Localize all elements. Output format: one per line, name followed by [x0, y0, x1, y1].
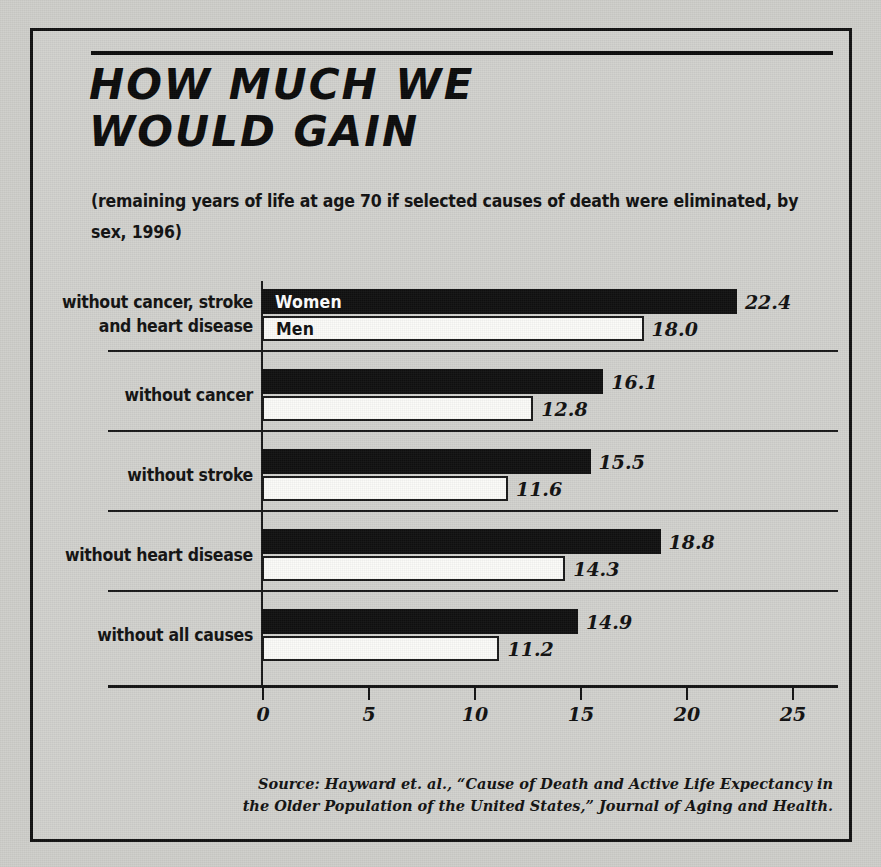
bar-men — [262, 636, 499, 661]
bar-value-women: 22.4 — [745, 291, 791, 313]
x-axis-tick — [792, 688, 794, 700]
series-label-women: Women — [275, 292, 342, 312]
bar-value-men: 12.8 — [541, 398, 587, 420]
category-label: without cancer — [38, 383, 253, 407]
x-axis-tick-label: 15 — [568, 703, 594, 725]
bar-value-men: 11.6 — [516, 478, 562, 500]
bar-women — [262, 369, 603, 394]
bar-women: Women — [262, 289, 737, 314]
bar-men — [262, 396, 533, 421]
bar-value-women: 14.9 — [586, 611, 632, 633]
category-label: without heart disease — [38, 543, 253, 567]
bar-value-men: 14.3 — [573, 558, 619, 580]
x-axis-tick-label: 25 — [780, 703, 806, 725]
x-axis-tick — [580, 688, 582, 700]
group-separator-line — [108, 430, 838, 432]
bar-value-men: 11.2 — [507, 638, 553, 660]
bar-women — [262, 449, 591, 474]
x-axis-tick — [474, 688, 476, 700]
x-axis-tick — [686, 688, 688, 700]
bar-women — [262, 609, 578, 634]
x-axis-tick-label: 10 — [462, 703, 488, 725]
x-axis-tick-label: 5 — [362, 703, 375, 725]
bar-value-women: 15.5 — [599, 451, 645, 473]
group-separator-line — [108, 510, 838, 512]
source-note: Source: Hayward et. al., “Cause of Death… — [233, 773, 833, 817]
x-axis-tick-label: 20 — [674, 703, 700, 725]
bar-men: Men — [262, 316, 644, 341]
x-axis-tick — [262, 688, 264, 700]
x-axis-tick — [368, 688, 370, 700]
bar-men — [262, 556, 565, 581]
x-axis-tick-label: 0 — [256, 703, 269, 725]
category-label: without stroke — [38, 463, 253, 487]
series-label-men: Men — [276, 319, 314, 339]
x-axis-line — [108, 685, 838, 688]
bar-men — [262, 476, 508, 501]
bar-value-women: 18.8 — [669, 531, 715, 553]
bar-value-women: 16.1 — [611, 371, 657, 393]
category-label: without cancer, stroke and heart disease — [38, 290, 253, 338]
bar-chart-plot: without cancer, stroke and heart disease… — [33, 31, 849, 839]
bar-value-men: 18.0 — [652, 318, 698, 340]
figure-frame: HOW MUCH WE WOULD GAIN (remaining years … — [30, 28, 852, 842]
category-label: without all causes — [38, 623, 253, 647]
figure-page: HOW MUCH WE WOULD GAIN (remaining years … — [0, 0, 881, 867]
group-separator-line — [108, 590, 838, 592]
bar-women — [262, 529, 661, 554]
group-separator-line — [108, 350, 838, 352]
